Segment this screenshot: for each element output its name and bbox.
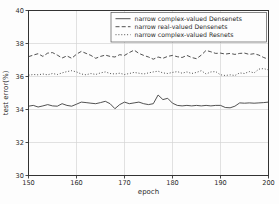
legend-label: narrow complex-valued Resnets xyxy=(135,31,234,39)
x-axis-label: epoch xyxy=(138,188,159,196)
y-tick-label: 30 xyxy=(16,172,24,180)
line-chart: 150160170180190200303234363840 epoch tes… xyxy=(0,0,279,204)
y-tick-label: 34 xyxy=(16,106,24,114)
y-tick-label: 40 xyxy=(16,7,24,15)
x-tick-label: 170 xyxy=(118,179,131,187)
x-tick-label: 190 xyxy=(214,179,227,187)
y-tick-label: 36 xyxy=(16,73,24,81)
y-tick-label: 38 xyxy=(16,40,24,48)
x-tick-label: 200 xyxy=(262,179,275,187)
x-tick-label: 160 xyxy=(70,179,83,187)
y-tick-label: 32 xyxy=(16,139,24,147)
series-lines xyxy=(29,50,269,109)
chart-figure: 150160170180190200303234363840 epoch tes… xyxy=(0,0,279,204)
x-tick-label: 150 xyxy=(22,179,35,187)
y-axis-label: test error(%) xyxy=(2,70,10,115)
legend-label: narrow real-valued Densenets xyxy=(135,23,228,30)
series-line-solid xyxy=(29,95,269,109)
x-tick-label: 180 xyxy=(166,179,179,187)
legend: narrow complex-valued Densenetsnarrow re… xyxy=(111,13,267,43)
legend-label: narrow complex-valued Densenets xyxy=(135,15,242,23)
series-line-dotted xyxy=(29,69,269,76)
series-line-dashed xyxy=(29,50,269,59)
